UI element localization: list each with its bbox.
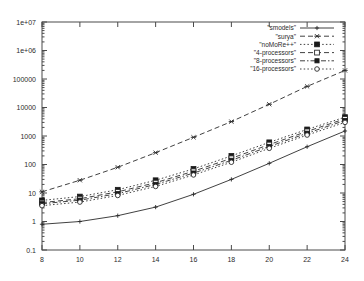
y-tick-label: 10000 — [17, 104, 37, 111]
marker-open-circle — [40, 203, 45, 208]
y-tick-label: 0.1 — [26, 247, 36, 254]
legend-label: "surya" — [275, 33, 296, 41]
y-tick-label: 10 — [28, 190, 36, 197]
series-line — [42, 117, 345, 200]
chart-container: 0.11101001000100001000001e+061e+07810121… — [0, 0, 364, 281]
line-chart-plot: 0.11101001000100001000001e+061e+07810121… — [0, 0, 364, 281]
marker-open-circle — [229, 160, 234, 165]
marker-open-circle — [78, 200, 83, 205]
x-tick-label: 20 — [265, 256, 273, 263]
legend-label: "noMoRe++" — [259, 41, 296, 48]
y-tick-label: 1e+06 — [16, 47, 36, 54]
marker-open-square — [315, 50, 320, 55]
marker-filled-square — [315, 42, 320, 47]
x-tick-label: 22 — [303, 256, 311, 263]
x-tick-label: 8 — [40, 256, 44, 263]
x-tick-label: 24 — [341, 256, 349, 263]
legend-label: "4-processors" — [254, 49, 297, 57]
legend-label: "16-processors" — [250, 65, 296, 73]
series-line — [42, 119, 345, 203]
marker-open-circle — [191, 173, 196, 178]
x-tick-label: 16 — [190, 256, 198, 263]
marker-open-circle — [305, 133, 310, 138]
y-tick-label: 1e+07 — [16, 19, 36, 26]
marker-open-circle — [153, 184, 158, 189]
marker-filled-square — [315, 59, 319, 63]
legend-label: "smodels" — [267, 24, 297, 31]
marker-open-circle — [267, 146, 272, 151]
marker-open-circle — [115, 193, 120, 198]
y-tick-label: 1 — [32, 218, 36, 225]
series-line — [42, 120, 345, 203]
y-tick-label: 100 — [24, 161, 36, 168]
x-tick-label: 12 — [114, 256, 122, 263]
legend-label: "8-processors" — [254, 57, 297, 65]
x-tick-label: 18 — [227, 256, 235, 263]
y-tick-label: 1000 — [20, 133, 36, 140]
x-tick-label: 14 — [152, 256, 160, 263]
marker-open-circle — [343, 120, 348, 125]
x-tick-label: 10 — [76, 256, 84, 263]
marker-open-circle — [315, 67, 320, 72]
y-tick-label: 100000 — [13, 76, 36, 83]
